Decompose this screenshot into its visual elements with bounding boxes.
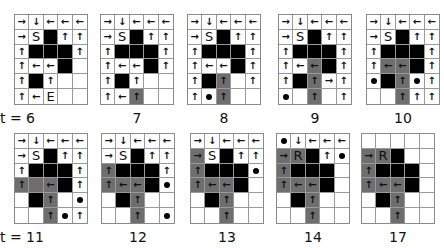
grid-cell (277, 193, 291, 208)
arrow-up-icon: ↑ (76, 32, 84, 42)
wall-cell (291, 193, 305, 208)
grid-cell: ← (44, 59, 58, 74)
time-step-label: 13 (190, 229, 264, 245)
arrow-right-icon: → (194, 151, 202, 161)
grid-cell: ↑ (337, 89, 351, 104)
grid-cell: ↑ (246, 59, 260, 74)
wall-cell (293, 74, 307, 89)
grid-cell: ↑ (159, 45, 173, 60)
grid-cell: ↑ (425, 89, 439, 104)
arrow-up-icon: ↑ (18, 166, 26, 176)
grid-cell (405, 193, 419, 208)
grid-cell (420, 134, 434, 149)
arrow-up-icon: ↑ (76, 166, 84, 176)
arrow-up-icon: ↑ (282, 76, 290, 86)
arrow-up-icon: ↑ (310, 92, 318, 102)
grid-panel: →↓←←←→S↑↑↑↑↑←←↑↑↑←Et = 6 (14, 14, 88, 105)
visited-path-cell: ↑ (44, 208, 58, 223)
grid-cell (15, 208, 29, 223)
grid-cell: ↑ (73, 149, 87, 164)
wall-cell (320, 178, 334, 193)
visited-path-cell: ↑ (396, 74, 410, 89)
arrow-up-icon: ↑ (428, 32, 436, 42)
grid-cell: S (29, 30, 43, 45)
grid-cell (335, 164, 349, 179)
marker-dot-icon (77, 197, 83, 203)
wall-cell (234, 178, 248, 193)
time-step-label: 7 (100, 110, 174, 126)
grid-cell: ← (234, 134, 248, 149)
arrow-left-icon: ← (148, 136, 156, 146)
arrow-up-icon: ↑ (163, 166, 171, 176)
grid-cell (420, 164, 434, 179)
arrow-right-icon: → (280, 151, 288, 161)
grid-cell: ↑ (410, 89, 424, 104)
wall-cell (217, 30, 231, 45)
grid-cell: ↑ (15, 164, 29, 179)
grid-cell (191, 193, 205, 208)
arrow-left-icon: ← (398, 17, 406, 27)
grid-cell: ↑ (234, 149, 248, 164)
visited-path-cell: ↑ (306, 193, 320, 208)
grid-cell: → (101, 30, 115, 45)
grid-cell: → (322, 74, 336, 89)
arrow-up-icon: ↑ (428, 92, 436, 102)
visited-path-cell: ← (306, 178, 320, 193)
grid-cell: S (293, 30, 307, 45)
arrow-up-icon: ↑ (132, 92, 140, 102)
grid-cell: ↑ (73, 164, 87, 179)
arrow-up-icon: ↑ (308, 195, 316, 205)
marker-dot-icon (62, 213, 68, 219)
grid-cell (205, 208, 219, 223)
wall-cell (405, 178, 419, 193)
wall-cell (410, 59, 424, 74)
grid-cell (335, 193, 349, 208)
arrow-up-icon: ↑ (340, 92, 348, 102)
arrow-up-icon: ↑ (323, 151, 331, 161)
grid-cell (144, 74, 158, 89)
grid-cell: → (188, 15, 202, 30)
grid-cell: ↓ (291, 134, 305, 149)
wall-cell (144, 59, 158, 74)
arrow-up-icon: ↑ (325, 32, 333, 42)
arrow-left-icon: ← (133, 136, 141, 146)
grid-cell: ← (115, 89, 129, 104)
visited-path-cell: ↑ (44, 193, 58, 208)
grid-cell (102, 208, 116, 223)
grid-cell (102, 193, 116, 208)
grid-cell (58, 208, 72, 223)
grid-cell: ← (115, 59, 129, 74)
visited-path-cell: ↑ (362, 178, 376, 193)
grid-cell: → (367, 15, 381, 30)
maze-grid: →↓←←←→S↑↑↑↑↑←↑↑↑↑ (14, 133, 88, 224)
arrow-up-icon: ↑ (237, 151, 245, 161)
grid-cell: ← (159, 15, 173, 30)
grid-cell: → (15, 134, 29, 149)
wall-cell (234, 164, 248, 179)
arrow-up-icon: ↑ (104, 61, 112, 71)
arrow-up-icon: ↑ (370, 61, 378, 71)
grid-cell (405, 134, 419, 149)
grid-cell (381, 89, 395, 104)
time-step-label: 12 (101, 229, 175, 245)
arrow-right-icon: → (105, 151, 113, 161)
visited-path-cell: ← (376, 178, 390, 193)
visited-path-cell: ← (44, 178, 58, 193)
arrow-right-icon: → (105, 136, 113, 146)
visited-path-cell: ↑ (102, 178, 116, 193)
arrow-up-icon: ↑ (76, 151, 84, 161)
visited-path-cell: ← (220, 178, 234, 193)
grid-cell: ← (131, 134, 145, 149)
wall-cell (115, 45, 129, 60)
grid-cell: ↑ (246, 74, 260, 89)
arrow-left-icon: ← (205, 61, 213, 71)
arrow-up-icon: ↑ (18, 76, 26, 86)
marker-dot-icon (339, 153, 345, 159)
grid-cell (249, 164, 263, 179)
wall-cell (145, 164, 159, 179)
grid-cell: ← (202, 59, 216, 74)
arrow-left-icon: ← (294, 180, 302, 190)
grid-cell: ← (231, 15, 245, 30)
arrow-up-icon: ↑ (104, 47, 112, 57)
wall-cell (29, 45, 43, 60)
